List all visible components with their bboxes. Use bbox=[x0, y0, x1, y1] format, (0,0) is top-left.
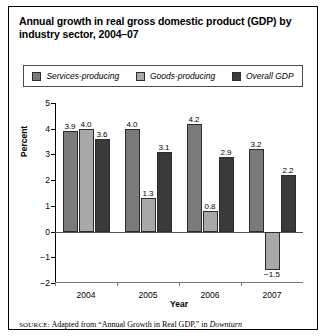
bar-group: 3.94.03.62004 bbox=[55, 103, 117, 283]
bar-group: 4.20.82.92006 bbox=[179, 103, 241, 283]
bar-value-label: 3.6 bbox=[96, 130, 107, 139]
y-axis-tick-label: 4 bbox=[45, 124, 50, 134]
bar-value-label: 4.0 bbox=[126, 120, 137, 129]
bar-value-label: 0.8 bbox=[204, 202, 215, 211]
bar: 4.0 bbox=[79, 129, 94, 232]
bar-value-label: 3.1 bbox=[158, 143, 169, 152]
chart-legend: Services-producing Goods-producing Overa… bbox=[23, 65, 303, 87]
legend-item-goods: Goods-producing bbox=[136, 71, 215, 81]
source-label: SOURCE: bbox=[19, 321, 50, 329]
x-axis-title: Year bbox=[55, 299, 303, 309]
plot-area: 543210−1−23.94.03.620044.01.33.120054.20… bbox=[55, 103, 303, 283]
x-axis-tick-mark bbox=[117, 283, 118, 286]
figure-panel: Annual growth in real gross domestic pro… bbox=[8, 6, 318, 330]
y-axis-tick-label: 0 bbox=[45, 227, 50, 237]
bar: 4.2 bbox=[187, 124, 202, 232]
source-text: Adapted from “Annual Growth in Real GDP,… bbox=[50, 320, 210, 329]
x-axis-tick-mark bbox=[179, 283, 180, 286]
source-note: SOURCE: Adapted from “Annual Growth in R… bbox=[19, 319, 311, 331]
bar-value-label: 1.3 bbox=[142, 189, 153, 198]
legend-item-services: Services-producing bbox=[32, 71, 119, 81]
bar: 3.2 bbox=[249, 149, 264, 231]
bar: 0.8 bbox=[203, 211, 218, 232]
bar-group: 3.2−1.52.22007 bbox=[241, 103, 303, 283]
bar-group: 4.01.33.12005 bbox=[117, 103, 179, 283]
figure-title: Annual growth in real gross domestic pro… bbox=[19, 15, 299, 41]
bar-value-label: 3.9 bbox=[64, 122, 75, 131]
bar-value-label: 2.2 bbox=[282, 166, 293, 175]
y-axis-tick-label: 1 bbox=[45, 201, 50, 211]
legend-label-services: Services-producing bbox=[46, 71, 119, 81]
legend-label-overall: Overall GDP bbox=[246, 71, 294, 81]
bar-value-label: −1.5 bbox=[264, 270, 280, 279]
bar: 3.6 bbox=[95, 139, 110, 232]
legend-swatch-overall bbox=[232, 72, 241, 81]
legend-swatch-services bbox=[32, 72, 41, 81]
bar: 4.0 bbox=[125, 129, 140, 232]
bar-value-label: 3.2 bbox=[250, 140, 261, 149]
bar: 2.9 bbox=[219, 157, 234, 232]
bar: 1.3 bbox=[141, 198, 156, 231]
y-axis-tick-label: −2 bbox=[40, 278, 50, 288]
bar-value-label: 2.9 bbox=[220, 148, 231, 157]
y-axis-tick-label: −1 bbox=[40, 252, 50, 262]
x-axis-tick-mark bbox=[241, 283, 242, 286]
y-axis-tick-label: 2 bbox=[45, 175, 50, 185]
bar: 3.1 bbox=[157, 152, 172, 232]
bar: −1.5 bbox=[265, 232, 280, 271]
source-italic: Downturn bbox=[210, 320, 242, 329]
bar-value-label: 4.0 bbox=[80, 120, 91, 129]
x-axis-tick-mark bbox=[55, 283, 56, 286]
y-axis-tick-label: 5 bbox=[45, 98, 50, 108]
bar: 2.2 bbox=[281, 175, 296, 232]
y-axis-tick-label: 3 bbox=[45, 149, 50, 159]
bar-value-label: 4.2 bbox=[188, 115, 199, 124]
legend-item-overall: Overall GDP bbox=[232, 71, 294, 81]
legend-label-goods: Goods-producing bbox=[150, 71, 215, 81]
legend-swatch-goods bbox=[136, 72, 145, 81]
y-axis-title: Percent bbox=[19, 126, 29, 157]
bar: 3.9 bbox=[63, 131, 78, 231]
